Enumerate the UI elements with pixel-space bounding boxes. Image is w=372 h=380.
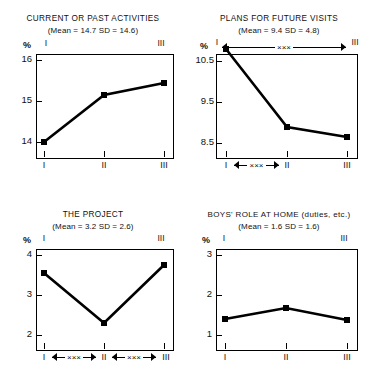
chart-panel-the-project: THE PROJECT (Mean = 3.2 SD = 2.6) % I II… (0, 190, 186, 380)
significance-stars: ××× (247, 161, 265, 170)
data-point (284, 124, 290, 130)
figure-sheet: CURRENT OR PAST ACTIVITIES (Mean = 14.7 … (0, 0, 372, 380)
chart-panel-boys-role-at-home: BOYS' ROLE AT HOME (duties, etc.) (Mean … (186, 190, 372, 380)
chart-panel-plans-for-future-visits: PLANS FOR FUTURE VISITS (Mean = 9.4 SD =… (186, 0, 372, 190)
data-point (41, 139, 47, 145)
x-tick-label-III: III (337, 352, 357, 362)
significance-bracket-bottom-2: ××× (112, 352, 156, 362)
bracket-stars-wrap: ××× (234, 154, 279, 172)
data-point (344, 317, 350, 323)
bracket-stars-wrap: ××× (112, 346, 156, 364)
significance-stars: ××× (65, 353, 83, 362)
x-tick-label-III: III (154, 160, 174, 170)
significance-stars: ××× (125, 353, 143, 362)
data-point (223, 46, 229, 52)
chart-panel-current-or-past-activities: CURRENT OR PAST ACTIVITIES (Mean = 14.7 … (0, 0, 186, 190)
data-point (161, 80, 167, 86)
data-point (101, 320, 107, 326)
data-point (101, 92, 107, 98)
x-tick-label-II: II (278, 352, 294, 362)
x-tick-label-I: I (217, 352, 233, 362)
x-tick-label-I: I (36, 352, 52, 362)
significance-bracket-bottom-1: ××× (234, 160, 279, 170)
x-tick-label-II: II (279, 160, 295, 170)
x-tick-label-III: III (156, 352, 176, 362)
significance-bracket-bottom-1: ××× (52, 352, 96, 362)
data-point (283, 305, 289, 311)
data-point (161, 262, 167, 268)
x-tick-label-II: II (95, 160, 113, 170)
data-point (41, 270, 47, 276)
x-tick-label-III: III (337, 160, 357, 170)
x-tick-label-I: I (36, 160, 52, 170)
x-tick-label-I: I (218, 160, 234, 170)
bracket-stars-wrap: ××× (52, 346, 96, 364)
data-point (222, 316, 228, 322)
x-tick-label-II: II (96, 352, 112, 362)
data-point (344, 134, 350, 140)
